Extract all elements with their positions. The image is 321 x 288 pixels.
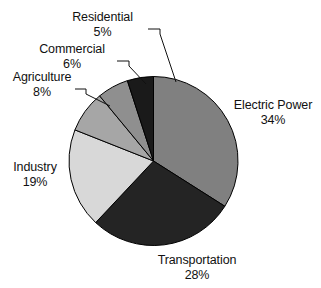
slice-label-agriculture-percent: 8% xyxy=(8,85,76,100)
slice-label-electric-power-percent: 34% xyxy=(228,113,318,128)
slice-label-transportation-percent: 28% xyxy=(148,268,246,283)
slice-label-agriculture-name: Agriculture xyxy=(8,70,76,85)
pie-slice-group xyxy=(69,77,238,246)
slice-label-electric-power: Electric Power 34% xyxy=(228,98,318,127)
slice-label-commercial: Commercial 6% xyxy=(26,42,118,71)
slice-label-commercial-name: Commercial xyxy=(26,42,118,57)
slice-label-residential-name: Residential xyxy=(55,10,150,25)
slice-label-residential-percent: 5% xyxy=(55,25,150,40)
slice-label-residential: Residential 5% xyxy=(55,10,150,39)
slice-label-industry: Industry 19% xyxy=(6,160,64,189)
slice-label-transportation: Transportation 28% xyxy=(148,253,246,282)
pie-chart: Residential 5% Commercial 6% Agriculture… xyxy=(0,0,321,288)
slice-label-electric-power-name: Electric Power xyxy=(228,98,318,113)
slice-label-agriculture: Agriculture 8% xyxy=(8,70,76,99)
slice-label-commercial-percent: 6% xyxy=(26,57,118,72)
leader-line-residential xyxy=(148,29,176,82)
slice-label-transportation-name: Transportation xyxy=(148,253,246,268)
slice-label-industry-name: Industry xyxy=(6,160,64,175)
slice-label-industry-percent: 19% xyxy=(6,175,64,190)
